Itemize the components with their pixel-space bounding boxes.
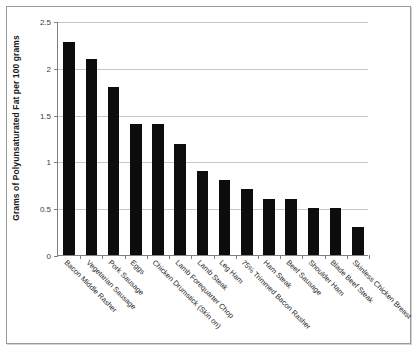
y-axis-tick-mark [54,256,58,257]
plot-area: 00.511.522.5 [57,22,368,256]
y-axis-tick-mark [54,69,58,70]
y-axis-tick-label: 1.5 [40,111,51,120]
gridline [58,22,368,23]
gridline [58,162,368,163]
y-axis-tick-mark [54,162,58,163]
plot-wrapper: 00.511.522.5 [57,22,368,256]
bar [263,199,275,255]
bar [219,180,231,255]
bar [63,42,75,255]
y-axis-tick-label: 0 [47,252,51,261]
x-axis-tick-mark [369,255,370,259]
bar [241,189,253,255]
y-axis-title-text: Grams of Polyunsaturated Fat per 100 gra… [11,35,21,221]
y-axis-tick-label: 2 [47,64,51,73]
gridline [58,69,368,70]
y-axis-tick-mark [54,22,58,23]
bar [152,124,164,255]
bar [330,208,342,255]
chart-screenshot: Grams of Polyunsaturated Fat per 100 gra… [0,0,419,352]
bar [86,59,98,255]
gridline [58,116,368,117]
bar [197,171,209,255]
y-axis-tick-label: 2.5 [40,18,51,27]
bar [130,124,142,255]
y-axis-tick-mark [54,116,58,117]
x-axis-labels: Bacon Middle RasherVegetarian SausagePor… [57,258,368,350]
bar [108,87,120,255]
bar [352,227,364,255]
bar [285,199,297,255]
y-axis-tick-label: 1 [47,158,51,167]
x-axis-tick-label: Eggs [129,258,147,276]
y-axis-title: Grams of Polyunsaturated Fat per 100 gra… [9,0,23,256]
y-axis-tick-mark [54,209,58,210]
gridline [58,209,368,210]
bar [174,144,186,255]
y-axis-tick-label: 0.5 [40,205,51,214]
bar [308,208,320,255]
